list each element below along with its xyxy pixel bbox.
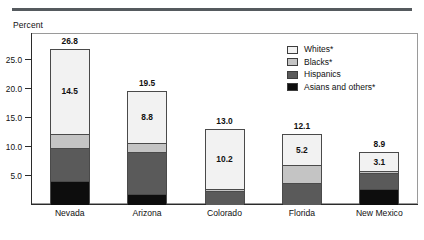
x-label-slot: Colorado <box>186 0 263 240</box>
legend-item[interactable]: Asians and others* <box>287 82 375 93</box>
y-axis-tick-label: 20.0 <box>0 84 22 94</box>
y-axis-tick-label: 5.0 <box>0 171 22 181</box>
legend-swatch-icon <box>287 83 298 91</box>
y-axis-tick-label: 25.0 <box>0 55 22 65</box>
x-label-slot: Nevada <box>31 0 108 240</box>
legend-swatch-icon <box>287 71 298 79</box>
legend-label: Whites* <box>304 45 333 54</box>
legend-swatch-icon <box>287 46 298 54</box>
chart-figure: Percent 5.010.015.020.025.0 14.526.88.81… <box>0 0 424 240</box>
x-axis-tick-label: Colorado <box>186 208 263 218</box>
x-label-slot: Arizona <box>108 0 185 240</box>
legend-label: Hispanics <box>304 70 341 79</box>
x-label-slot: Florida <box>263 0 340 240</box>
x-axis-tick-label: New Mexico <box>341 208 418 218</box>
legend-item[interactable]: Hispanics <box>287 69 375 80</box>
y-axis-tick-label: 15.0 <box>0 113 22 123</box>
legend-item[interactable]: Whites* <box>287 44 375 55</box>
chart-legend: Whites*Blacks*HispanicsAsians and others… <box>287 44 375 94</box>
legend-item[interactable]: Blacks* <box>287 57 375 68</box>
x-axis-tick-label: Florida <box>263 208 340 218</box>
legend-swatch-icon <box>287 58 298 66</box>
x-label-slot: New Mexico <box>341 0 418 240</box>
x-axis-tick-label: Nevada <box>31 208 108 218</box>
x-axis-tick-label: Arizona <box>108 208 185 218</box>
legend-label: Blacks* <box>304 58 332 67</box>
legend-label: Asians and others* <box>304 83 375 92</box>
y-axis-tick-label: 10.0 <box>0 142 22 152</box>
